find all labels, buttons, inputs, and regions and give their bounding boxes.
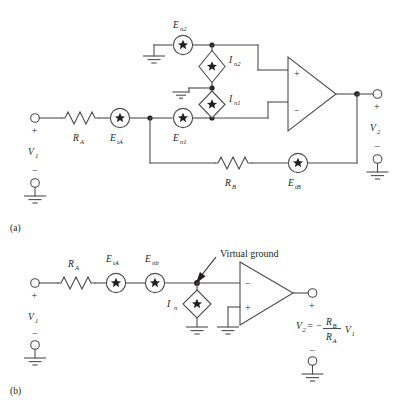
output-terminal-negative-b[interactable] xyxy=(308,357,317,366)
input-minus-sign-b: − xyxy=(32,328,38,339)
label-in2-sub-a: n2 xyxy=(234,60,241,67)
label-rb-a: R xyxy=(224,178,231,188)
panel-a-input-branch xyxy=(31,102,288,128)
label-in2-a: I xyxy=(228,55,233,65)
output-eq-numerator-sub-b: B xyxy=(333,322,337,329)
input-label-v1-sub-b: 1 xyxy=(35,317,38,324)
label-eta-sub-a: tA xyxy=(117,138,124,145)
panel-caption-a: (a) xyxy=(10,223,21,234)
opamp-inverting-sign-b: − xyxy=(245,278,251,289)
ground-symbol-output-a xyxy=(367,172,389,179)
label-en1-sub-a: n1 xyxy=(180,138,187,145)
figure-noise-model-opamp: + V 1 − R A E tA E n1 xyxy=(0,0,408,404)
output-eq-numerator-b: R xyxy=(325,317,332,327)
input-label-v1-a: V xyxy=(28,147,35,157)
noise-source-en2-a[interactable] xyxy=(173,35,192,54)
noise-source-in-b[interactable] xyxy=(183,283,211,334)
output-minus-sign-a: − xyxy=(375,141,381,152)
label-rb-sub-a: B xyxy=(232,183,236,190)
input-minus-sign-a: − xyxy=(32,165,38,176)
opamp-b[interactable]: − + xyxy=(240,262,293,325)
noise-source-in1-a[interactable] xyxy=(199,91,225,118)
input-plus-sign-b: + xyxy=(32,290,38,301)
label-in-sub-b: n xyxy=(174,304,178,311)
ground-symbol-opamp-b xyxy=(217,327,239,334)
resistor-ra-b xyxy=(58,277,95,289)
label-ra-sub-a: A xyxy=(79,138,85,145)
label-in1-sub-a: n1 xyxy=(234,99,241,106)
output-terminal-positive-a[interactable] xyxy=(373,90,382,99)
panel-a: + V 1 − R A E tA E n1 xyxy=(10,20,389,234)
ground-symbol-en2-a xyxy=(143,56,165,63)
ground-symbol-input-b xyxy=(24,358,46,365)
panel-caption-b: (b) xyxy=(10,386,21,397)
input-label-v1-b: V xyxy=(28,312,35,322)
label-etb-a: E xyxy=(287,178,294,188)
output-eq-equals-b: = − xyxy=(307,321,322,331)
noise-source-enb-b[interactable] xyxy=(145,273,164,292)
input-terminal-negative-a[interactable] xyxy=(31,179,40,188)
opamp-a[interactable]: + − xyxy=(288,57,336,131)
ground-symbol-current-sources-a xyxy=(173,92,190,98)
label-enb-b: E xyxy=(144,254,151,264)
output-terminal-positive-b[interactable] xyxy=(308,289,317,298)
noise-source-en1-a[interactable] xyxy=(173,108,192,127)
output-minus-sign-b: − xyxy=(310,345,316,356)
output-eq-v1-sub-b: 1 xyxy=(352,330,355,337)
input-terminal-negative-b[interactable] xyxy=(31,341,40,350)
label-en1-a: E xyxy=(172,133,179,143)
output-label-v2-sub-a: 2 xyxy=(377,128,381,135)
input-label-v1-sub-a: 1 xyxy=(35,152,38,159)
output-plus-sign-b: + xyxy=(309,300,315,311)
label-en2-a: E xyxy=(172,20,179,30)
panel-b-input-branch xyxy=(31,273,240,292)
output-label-v2-a: V xyxy=(370,123,377,133)
panel-a-output: + V 2 − xyxy=(336,90,389,179)
panel-b: + V 1 − R A E tA E nb Virtual ground xyxy=(10,248,355,397)
label-eta-sub-b: tA xyxy=(113,259,120,266)
label-etb-sub-a: tB xyxy=(295,183,301,190)
resistor-rb-a xyxy=(215,157,252,169)
circuit-diagram-svg: + V 1 − R A E tA E n1 xyxy=(0,0,408,404)
label-ra-b: R xyxy=(67,259,74,269)
output-equation-b: V 2 = − R B R A V 1 xyxy=(296,317,355,344)
output-eq-v2-sub-b: 2 xyxy=(303,326,307,333)
ground-symbol-output-b xyxy=(302,374,324,381)
opamp-inverting-sign-a: − xyxy=(294,105,300,116)
opamp-noninverting-sign-a: + xyxy=(294,68,300,79)
label-in1-a: I xyxy=(228,94,233,104)
label-eta-b: E xyxy=(105,254,112,264)
input-terminal-positive-a[interactable] xyxy=(31,114,40,123)
input-terminal-positive-b[interactable] xyxy=(31,279,40,288)
ground-symbol-input-a xyxy=(24,196,46,203)
output-terminal-negative-a[interactable] xyxy=(373,155,382,164)
label-enb-sub-b: nb xyxy=(152,259,159,266)
virtual-ground-label-b: Virtual ground xyxy=(220,248,279,259)
input-plus-sign-a: + xyxy=(32,125,38,136)
panel-a-source-v1: + V 1 − xyxy=(24,125,46,203)
output-plus-sign-a: + xyxy=(374,101,380,112)
output-eq-denominator-b: R xyxy=(325,332,332,342)
label-ra-a: R xyxy=(72,133,79,143)
label-en2-sub-a: n2 xyxy=(180,25,187,32)
label-eta-a: E xyxy=(109,133,116,143)
noise-source-etb-a[interactable] xyxy=(288,153,307,172)
label-ra-sub-b: A xyxy=(74,264,80,271)
label-in-b: I xyxy=(166,299,171,309)
output-eq-denominator-sub-b: A xyxy=(332,337,338,344)
opamp-noninverting-sign-b: + xyxy=(245,302,251,313)
ground-symbol-in-b xyxy=(186,327,208,334)
panel-b-source-v1: + V 1 − xyxy=(24,290,46,365)
noise-source-eta-b[interactable] xyxy=(106,273,125,292)
noise-source-eta-a[interactable] xyxy=(110,108,129,127)
noise-source-in2-a[interactable] xyxy=(199,51,225,83)
resistor-ra-a xyxy=(62,112,99,124)
panel-b-output: + V 2 = − R B R A V 1 − xyxy=(293,289,355,381)
